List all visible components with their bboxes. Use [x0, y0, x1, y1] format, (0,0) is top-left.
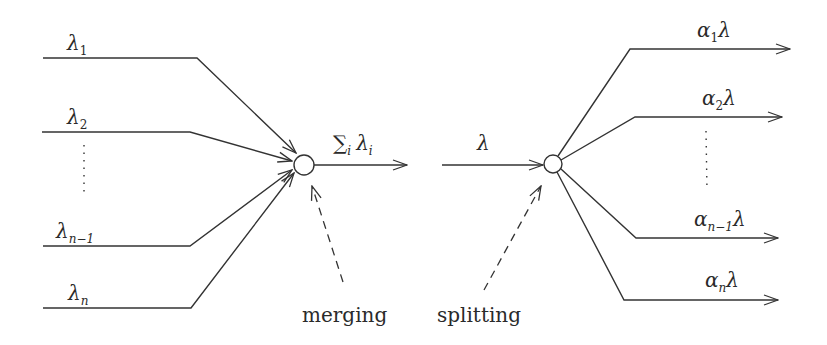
split-output-n-label: αnλ: [705, 268, 739, 295]
splitting-caption: splitting: [437, 303, 521, 327]
split-output-n: αnλ: [557, 172, 778, 300]
merge-input-n-label: λn: [67, 281, 88, 308]
merge-input-n-minus-1: λn−1: [43, 170, 292, 246]
split-output-n-minus-1: αn−1λ: [561, 169, 778, 238]
merge-output: ∑iλi: [314, 131, 407, 165]
merge-input-2-label: λ2: [66, 105, 87, 132]
merge-node: [294, 155, 314, 175]
split-node: [544, 155, 562, 173]
split-output-2-label: α2λ: [702, 86, 736, 113]
split-input: λ: [442, 131, 543, 165]
merge-input-n-minus-1-label: λn−1: [55, 219, 94, 246]
split-output-1-line: [558, 49, 790, 156]
splitting-pointer-dashed: [484, 186, 541, 290]
split-output-n-minus-1-label: αn−1λ: [694, 207, 746, 234]
split-output-2-line: [561, 117, 782, 160]
split-output-2: α2λ: [561, 86, 782, 160]
merge-output-label: ∑iλi: [333, 131, 373, 158]
merge-input-2-line: [42, 132, 292, 161]
merge-input-1-label: λ1: [66, 31, 87, 58]
split-output-1-label: α1λ: [697, 18, 731, 45]
split-input-label: λ: [476, 131, 490, 155]
split-output-n-line: [557, 172, 778, 300]
merging-caption: merging: [302, 303, 387, 327]
split-ellipsis-dots: [706, 131, 707, 190]
merge-input-1: λ1: [43, 31, 296, 153]
merge-input-1-line: [43, 58, 296, 153]
merging-section: λ1 λ2 λn−1 λn ∑iλi merging: [42, 31, 407, 327]
merging-splitting-diagram: λ1 λ2 λn−1 λn ∑iλi merging: [0, 0, 827, 345]
split-output-1: α1λ: [558, 18, 790, 156]
merging-pointer-dashed: [312, 186, 343, 282]
splitting-section: λ α1λ α2λ αn−1λ αnλ splitting: [437, 18, 790, 327]
